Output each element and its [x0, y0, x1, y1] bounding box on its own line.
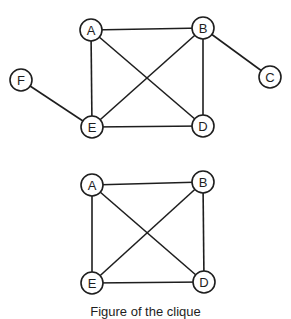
figure-caption: Figure of the clique — [0, 304, 291, 319]
edge-a-e — [91, 30, 92, 127]
node-f: F — [10, 69, 32, 91]
node-label: A — [88, 178, 97, 193]
node-d: D — [192, 115, 214, 137]
node-b: B — [192, 17, 214, 39]
node-label: F — [17, 73, 25, 88]
node-label: C — [265, 70, 274, 85]
node-label: D — [199, 275, 208, 290]
edge-b-e — [92, 182, 203, 283]
edge-a-b — [91, 28, 203, 30]
graph-top: ABCDEF — [10, 17, 281, 138]
node-label: B — [199, 175, 208, 190]
node-label: D — [198, 119, 207, 134]
node-label: E — [88, 120, 97, 135]
node-a: A — [81, 174, 103, 196]
node-d: D — [193, 271, 215, 293]
node-label: B — [199, 21, 208, 36]
graph-bottom: ABDE — [81, 171, 215, 294]
edge-e-d — [92, 126, 203, 127]
node-b: B — [192, 171, 214, 193]
edge-b-d — [203, 182, 204, 282]
node-a: A — [80, 19, 102, 41]
node-label: A — [87, 23, 96, 38]
edge-f-e — [21, 80, 92, 127]
edge-e-d — [92, 282, 204, 283]
node-e: E — [81, 116, 103, 138]
node-c: C — [259, 66, 281, 88]
node-label: E — [88, 276, 97, 291]
edge-a-b — [92, 182, 203, 185]
edge-b-c — [203, 28, 270, 77]
node-e: E — [81, 272, 103, 294]
